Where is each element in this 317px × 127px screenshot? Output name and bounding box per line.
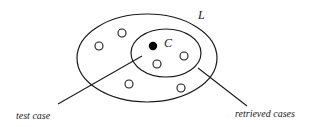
case-node (125, 80, 133, 88)
outer-set-ellipse (77, 14, 217, 102)
test-case-node (149, 42, 157, 50)
case-node (118, 29, 126, 37)
diagram-canvas: L C test case retrieved cases (0, 0, 317, 127)
case-node (177, 84, 185, 92)
case-node (153, 60, 161, 68)
retrieved-cases-pointer (198, 68, 247, 106)
case-node (95, 42, 103, 50)
retrieved-cases-label: retrieved cases (235, 108, 295, 119)
center-label: C (164, 36, 173, 50)
outer-set-label: L (197, 8, 205, 22)
test-case-label: test case (16, 110, 51, 121)
case-node (180, 52, 188, 60)
